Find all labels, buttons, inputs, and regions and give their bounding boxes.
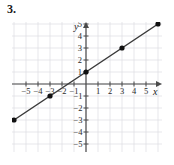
graph-svg: −5−4−3−2−11234554321−1−2−3−4−5 x y [12, 22, 162, 152]
y-axis-arrow-icon [83, 22, 89, 28]
y-tick-label: 3 [78, 43, 82, 53]
plotted-point [119, 45, 124, 50]
y-axis-label: y [73, 22, 79, 32]
problem-number-label: 3. [7, 2, 16, 17]
y-tick-label: −4 [73, 127, 83, 137]
y-tick-label: 2 [78, 55, 82, 65]
coordinate-plane: −5−4−3−2−11234554321−1−2−3−4−5 x y [12, 22, 162, 152]
x-axis-label: x [152, 86, 158, 97]
x-tick-label: 1 [96, 86, 100, 96]
y-tick-label: −3 [73, 115, 82, 125]
y-tick-label: −2 [73, 103, 82, 113]
x-tick-label: 4 [132, 86, 137, 96]
plotted-point [83, 69, 88, 74]
x-tick-label: 5 [144, 86, 148, 96]
x-tick-label: 3 [120, 86, 124, 96]
x-tick-label: 2 [108, 86, 112, 96]
y-tick-label: −5 [73, 139, 82, 149]
graph-figure: 3. −5−4−3−2−11234554321−1−2−3−4−5 x y [0, 0, 174, 165]
x-tick-label: −4 [33, 86, 43, 96]
tick-labels: −5−4−3−2−11234554321−1−2−3−4−5 [21, 22, 148, 149]
x-tick-label: −5 [21, 86, 30, 96]
y-tick-label: −1 [73, 91, 82, 101]
plotted-point [47, 93, 52, 98]
